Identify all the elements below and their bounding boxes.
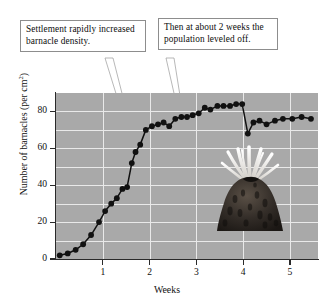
data-point-marker [190, 112, 196, 118]
data-point-marker [161, 120, 167, 126]
y-tick-label: 0 [25, 252, 47, 263]
data-point-marker [96, 219, 102, 225]
x-tick-mark [149, 260, 150, 265]
data-point-marker [202, 105, 208, 111]
data-point-marker [272, 118, 278, 124]
y-tick-label: 60 [25, 141, 47, 152]
x-axis-line [55, 259, 319, 260]
y-tick-mark [50, 185, 55, 186]
y-tick-label: 40 [25, 178, 47, 189]
data-point-marker [124, 184, 130, 190]
data-point-marker [129, 160, 135, 166]
x-tick-label: 1 [95, 266, 111, 277]
x-tick-mark [196, 260, 197, 265]
y-tick-label: 80 [25, 104, 47, 115]
data-point-marker [166, 123, 172, 129]
data-point-marker [308, 116, 314, 122]
y-tick-mark [50, 258, 55, 259]
data-point-marker [57, 252, 63, 258]
data-point-marker [233, 101, 239, 107]
data-point-marker [80, 241, 86, 247]
x-tick-label: 4 [235, 266, 251, 277]
data-point-marker [264, 121, 270, 127]
y-tick-mark [50, 111, 55, 112]
x-tick-mark [289, 260, 290, 265]
data-point-marker [196, 110, 202, 116]
data-point-marker [239, 101, 245, 107]
data-point-marker [221, 103, 227, 109]
data-point-marker [227, 103, 233, 109]
y-tick-label: 20 [25, 215, 47, 226]
y-tick-mark [50, 222, 55, 223]
data-point-marker [257, 118, 263, 124]
data-series-line [0, 0, 334, 308]
data-point-marker [102, 208, 108, 214]
data-point-marker [245, 131, 251, 137]
data-point-marker [289, 116, 295, 122]
data-point-marker [137, 142, 143, 148]
data-point-marker [65, 251, 71, 257]
data-point-marker [133, 149, 139, 155]
x-tick-label: 2 [142, 266, 158, 277]
data-point-marker [215, 103, 221, 109]
x-axis-label: Weeks [0, 284, 334, 295]
y-axis-line [55, 92, 56, 260]
data-point-marker [149, 123, 155, 129]
x-tick-mark [102, 260, 103, 265]
data-point-marker [155, 121, 161, 127]
data-point-marker [251, 120, 257, 126]
data-point-marker [114, 195, 120, 201]
y-tick-mark [50, 148, 55, 149]
data-point-marker [143, 127, 149, 133]
data-point-marker [299, 114, 305, 120]
data-point-marker [280, 116, 286, 122]
series-polyline [60, 104, 311, 255]
figure-root: Settlement rapidly increased barnacle de… [0, 0, 334, 308]
data-point-marker [88, 232, 94, 238]
x-tick-label: 5 [282, 266, 298, 277]
data-point-marker [184, 114, 190, 120]
data-point-marker [108, 201, 114, 207]
x-tick-label: 3 [188, 266, 204, 277]
data-point-marker [172, 116, 178, 122]
data-point-marker [207, 107, 213, 113]
data-point-marker [178, 114, 184, 120]
data-point-marker [73, 247, 79, 253]
x-tick-mark [243, 260, 244, 265]
